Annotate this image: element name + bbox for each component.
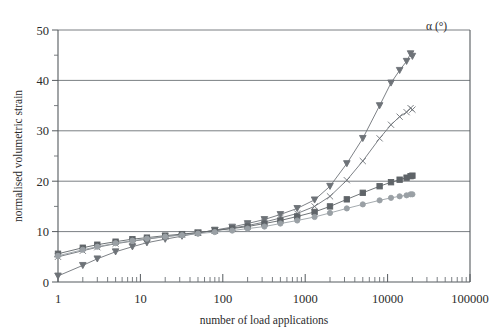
- data-point-marker: [94, 256, 101, 262]
- data-point-marker: [377, 198, 382, 203]
- data-point-marker: [262, 224, 267, 229]
- data-point-marker: [388, 180, 393, 185]
- data-point-marker: [410, 192, 415, 197]
- data-point-marker: [312, 214, 317, 219]
- data-point-marker: [130, 238, 135, 243]
- data-point-marker: [245, 226, 250, 231]
- data-point-marker: [409, 107, 415, 113]
- series-line-0: [58, 176, 412, 254]
- x-tick-label-100: 100: [213, 292, 232, 306]
- data-point-marker: [95, 244, 100, 249]
- data-point-marker: [312, 209, 317, 214]
- data-point-marker: [129, 244, 136, 250]
- data-point-marker: [360, 190, 365, 195]
- data-point-marker: [163, 234, 168, 239]
- data-point-marker: [212, 230, 217, 235]
- data-point-marker: [376, 103, 383, 109]
- data-point-marker: [55, 253, 60, 258]
- data-point-marker: [311, 197, 318, 203]
- data-point-marker: [397, 194, 402, 199]
- y-tick-label-40: 40: [37, 74, 50, 88]
- x-tick-label-1: 1: [55, 292, 61, 306]
- data-point-marker: [359, 135, 366, 141]
- data-point-marker: [388, 195, 393, 200]
- y-tick-label-0: 0: [43, 276, 49, 290]
- chart-figure: 01020304050110100100010000100000α (°)num…: [0, 0, 502, 335]
- data-point-marker: [360, 202, 365, 207]
- data-point-marker: [327, 210, 332, 215]
- x-tick-label-100000: 100000: [451, 292, 489, 306]
- data-point-marker: [360, 158, 366, 164]
- x-tick-label-10000: 10000: [372, 292, 403, 306]
- data-point-marker: [377, 135, 383, 141]
- data-point-marker: [397, 114, 403, 120]
- x-tick-label-1000: 1000: [293, 292, 318, 306]
- data-point-marker: [388, 80, 395, 86]
- data-point-marker: [295, 218, 300, 223]
- data-point-marker: [327, 204, 332, 209]
- data-point-marker: [179, 233, 184, 238]
- data-point-marker: [327, 193, 333, 199]
- y-tick-label-20: 20: [37, 175, 50, 189]
- y-tick-label-10: 10: [37, 225, 50, 239]
- data-point-marker: [344, 206, 349, 211]
- series-0: [55, 173, 415, 257]
- series-45: [55, 105, 416, 260]
- data-point-marker: [410, 173, 415, 178]
- y-tick-label-50: 50: [37, 24, 50, 38]
- data-point-marker: [377, 184, 382, 189]
- x-axis-title: number of load applications: [200, 314, 329, 327]
- y-tick-label-30: 30: [37, 124, 50, 138]
- data-point-marker: [278, 221, 283, 226]
- normalised-volumetric-strain-chart: 01020304050110100100010000100000α (°)num…: [0, 0, 502, 335]
- data-point-marker: [388, 122, 394, 128]
- y-axis-title: normalised volumetric strain: [12, 90, 24, 222]
- data-point-marker: [397, 177, 402, 182]
- data-point-marker: [230, 228, 235, 233]
- data-point-marker: [311, 203, 317, 209]
- data-point-marker: [195, 231, 200, 236]
- data-point-marker: [80, 247, 85, 252]
- data-point-marker: [277, 212, 284, 218]
- data-point-marker: [344, 197, 349, 202]
- x-tick-label-10: 10: [134, 292, 147, 306]
- data-point-marker: [112, 249, 119, 255]
- data-point-marker: [80, 262, 87, 268]
- data-point-marker: [344, 177, 350, 183]
- data-point-marker: [113, 241, 118, 246]
- data-point-marker: [396, 67, 403, 73]
- data-point-marker: [344, 161, 351, 167]
- data-point-marker: [55, 273, 62, 279]
- data-point-marker: [144, 236, 149, 241]
- legend-header-alpha-degrees: α (°): [426, 20, 447, 33]
